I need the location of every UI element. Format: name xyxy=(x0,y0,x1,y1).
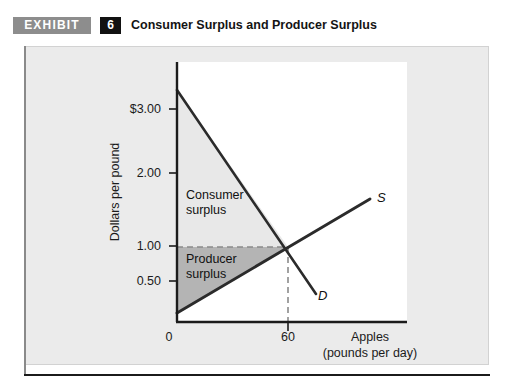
x-axis-subtitle: (pounds per day) xyxy=(310,346,430,360)
producer-surplus-label-line2: surplus xyxy=(186,267,226,282)
x-tick-label-60: 60 xyxy=(276,330,300,344)
consumer-surplus-label-line2: surplus xyxy=(186,203,226,218)
x-axis-title: Apples xyxy=(330,330,410,344)
x-tick-label-0: 0 xyxy=(157,330,181,344)
producer-surplus-label-line1: Producer xyxy=(186,252,237,267)
chart-plot: Dollars per pound $3.00 2.00 1.00 0.50 0… xyxy=(0,0,512,386)
demand-curve-label: D xyxy=(318,288,327,303)
consumer-surplus-label-line1: Consumer xyxy=(186,188,244,203)
y-tick-label-3: $3.00 xyxy=(130,101,161,117)
exhibit-figure: EXHIBIT 6 Consumer Surplus and Producer … xyxy=(0,0,512,386)
y-tick-label-2: 2.00 xyxy=(137,165,161,181)
supply-curve-label: S xyxy=(377,190,386,205)
chart-graphics xyxy=(0,0,512,386)
y-tick-label-1: 1.00 xyxy=(137,238,161,254)
y-tick-label-0-50: 0.50 xyxy=(137,273,161,289)
